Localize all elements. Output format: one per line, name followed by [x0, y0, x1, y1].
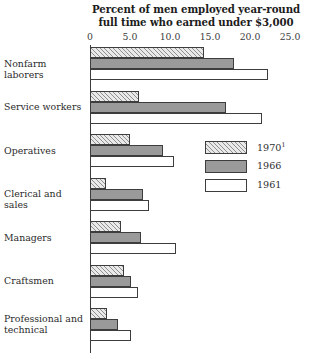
bar-nonfarm-laborers-1970 — [90, 47, 204, 58]
category-label-professional-line-1: Professional and — [4, 313, 88, 324]
x-tick-10: 10.0 — [160, 31, 181, 42]
chart-title-line-1: Percent of men employed year-round — [72, 3, 320, 16]
category-label-managers: Managers — [4, 232, 88, 243]
bar-service-workers-1961 — [90, 113, 262, 124]
legend-item-1966: 1966 — [205, 159, 315, 178]
plot-area — [90, 45, 290, 356]
legend-label-1961: 1961 — [257, 179, 281, 190]
legend-swatch-1970-icon — [205, 141, 247, 154]
legend-swatch-1966-icon — [205, 160, 247, 173]
chart-container: Percent of men employed year-round full … — [0, 0, 322, 359]
bar-managers-1970 — [90, 221, 121, 232]
bar-nonfarm-laborers-1966 — [90, 58, 234, 69]
x-tick-0: 0 — [87, 31, 93, 42]
bar-craftsmen-1961 — [90, 287, 138, 298]
bar-clerical-and-sales-1966 — [90, 189, 143, 200]
legend-label-1966: 1966 — [257, 160, 281, 171]
category-label-clerical-and-sales: Clerical and sales — [4, 188, 88, 211]
bar-service-workers-1966 — [90, 102, 226, 113]
bar-professional-and-technical-1966 — [90, 319, 118, 330]
legend-item-1961: 1961 — [205, 178, 315, 197]
legend-item-1970: 19701 — [205, 140, 315, 159]
category-label-nonfarm-laborers: Nonfarm laborers — [4, 58, 88, 81]
bar-craftsmen-1970 — [90, 265, 124, 276]
bar-operatives-1970 — [90, 134, 130, 145]
category-label-service-workers: Service workers — [4, 101, 88, 112]
legend-label-1970: 19701 — [257, 141, 285, 153]
bar-nonfarm-laborers-1961 — [90, 69, 268, 80]
legend-footnote-1970: 1 — [281, 141, 285, 148]
chart-title: Percent of men employed year-round full … — [72, 3, 320, 29]
category-label-craftsmen: Craftsmen — [4, 275, 88, 286]
category-label-professional-and-technical: Professional and technical — [4, 313, 88, 336]
x-tick-25: 25.0 — [280, 31, 301, 42]
bar-operatives-1961 — [90, 156, 174, 167]
bar-professional-and-technical-1970 — [90, 308, 107, 319]
chart-title-line-2: full time who earned under $3,000 — [72, 16, 320, 29]
bar-operatives-1966 — [90, 145, 163, 156]
bar-clerical-and-sales-1970 — [90, 178, 106, 189]
bar-service-workers-1970 — [90, 91, 139, 102]
bar-clerical-and-sales-1961 — [90, 200, 149, 211]
x-tick-5: 5.0 — [123, 31, 138, 42]
chart-legend: 19701 1966 1961 — [205, 140, 315, 197]
bar-managers-1961 — [90, 243, 176, 254]
x-tick-15: 15.0 — [200, 31, 221, 42]
category-label-professional-line-2: technical — [4, 324, 88, 335]
bar-professional-and-technical-1961 — [90, 330, 131, 341]
legend-label-1970-text: 1970 — [257, 142, 281, 153]
bar-craftsmen-1966 — [90, 276, 131, 287]
category-label-operatives: Operatives — [4, 145, 88, 156]
x-axis-tick-labels: 0 5.0 10.0 15.0 20.0 25.0 — [90, 31, 300, 44]
bar-managers-1966 — [90, 232, 141, 243]
x-tick-20: 20.0 — [240, 31, 261, 42]
legend-swatch-1961-icon — [205, 179, 247, 192]
